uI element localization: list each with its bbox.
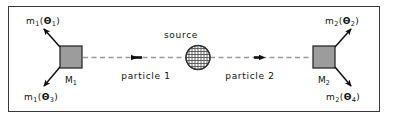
source-sphere-icon [186, 46, 210, 70]
svg-text:m1(Θ3): m1(Θ3) [24, 92, 58, 104]
detector-m1-box[interactable] [60, 46, 82, 68]
detector-m2-box[interactable] [313, 46, 335, 68]
particle-2-label: particle 2 [225, 71, 275, 81]
diagram-canvas: m1(Θ1) m1(Θ3) m2(Θ2) m2(Θ4) M1 [0, 0, 396, 124]
outcome-label-m2-theta4: m2(Θ4) [326, 92, 360, 104]
svg-text:M2: M2 [318, 75, 330, 87]
outcome-mass-symbol: m [325, 16, 334, 26]
outcome-arrow-m2-theta2 [335, 29, 351, 47]
outcome-paren-close: ) [56, 16, 60, 26]
figure-root: m1(Θ1) m1(Θ3) m2(Θ2) m2(Θ4) M1 [0, 0, 396, 124]
outcome-theta-symbol: Θ [344, 92, 352, 102]
outcome-paren-close: ) [355, 16, 359, 26]
outcome-arrow-m2-theta4 [335, 67, 351, 86]
svg-text:m2(Θ4): m2(Θ4) [326, 92, 360, 104]
detector-m1-caption: M1 [65, 75, 77, 87]
outcome-mass-symbol: m [24, 92, 33, 102]
outcome-arrow-m1-theta3 [44, 67, 60, 86]
svg-text:m2(Θ2): m2(Θ2) [325, 16, 359, 28]
outcome-mass-symbol: m [26, 16, 35, 26]
particle-1-label: particle 1 [121, 71, 171, 81]
detector-m2-caption: M2 [318, 75, 330, 87]
source-label: source [164, 30, 198, 40]
detector-m1-subscript: 1 [73, 79, 77, 87]
svg-text:M1: M1 [65, 75, 77, 87]
outcome-paren-close: ) [54, 92, 58, 102]
outcome-theta-symbol: Θ [42, 92, 50, 102]
detector-m1-symbol: M [65, 75, 73, 85]
outcome-label-m1-theta1: m1(Θ1) [26, 16, 60, 28]
outcome-mass-symbol: m [326, 92, 335, 102]
detector-m2-symbol: M [318, 75, 326, 85]
outcome-arrow-m1-theta1 [44, 29, 60, 47]
outcome-label-m1-theta3: m1(Θ3) [24, 92, 58, 104]
detector-m2-subscript: 2 [326, 79, 330, 87]
outcome-theta-symbol: Θ [343, 16, 351, 26]
outcome-label-m2-theta2: m2(Θ2) [325, 16, 359, 28]
outcome-paren-close: ) [356, 92, 360, 102]
outcome-theta-symbol: Θ [44, 16, 52, 26]
svg-text:m1(Θ1): m1(Θ1) [26, 16, 60, 28]
